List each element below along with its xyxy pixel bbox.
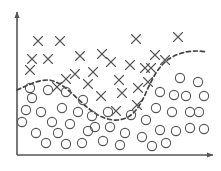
scatter-plot-canvas [0, 0, 221, 171]
classification-figure [0, 0, 221, 171]
plot-background [0, 0, 221, 171]
